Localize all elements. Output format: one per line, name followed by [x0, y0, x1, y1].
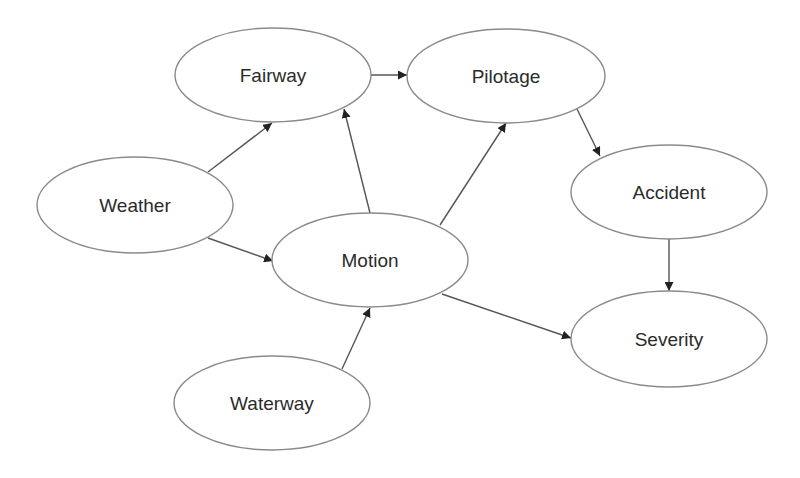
node-fairway: Fairway [175, 28, 371, 122]
node-motion: Motion [272, 213, 468, 307]
node-label: Weather [99, 195, 171, 216]
edge-weather-to-fairway [208, 123, 272, 172]
edge-waterway-to-motion [342, 308, 370, 369]
node-label: Fairway [240, 65, 307, 86]
arrow-line [577, 109, 600, 156]
node-pilotage: Pilotage [407, 29, 605, 123]
arrow-line [344, 109, 370, 213]
node-label: Severity [635, 329, 704, 350]
edge-motion-to-severity [442, 294, 571, 338]
node-accident: Accident [571, 145, 767, 239]
edge-weather-to-motion [208, 238, 273, 261]
arrow-line [208, 238, 273, 261]
node-label: Pilotage [472, 66, 541, 87]
causal-diagram: FairwayPilotageWeatherAccidentMotionSeve… [0, 0, 800, 478]
node-weather: Weather [37, 157, 233, 253]
arrow-line [208, 123, 272, 172]
edge-motion-to-fairway [344, 109, 370, 213]
edge-pilotage-to-accident [577, 109, 600, 156]
arrow-line [442, 294, 571, 338]
node-label: Waterway [230, 393, 314, 414]
arrow-line [440, 123, 506, 225]
arrow-line [342, 308, 370, 369]
node-severity: Severity [571, 291, 767, 387]
node-waterway: Waterway [174, 356, 370, 450]
nodes-layer: FairwayPilotageWeatherAccidentMotionSeve… [37, 28, 767, 450]
node-label: Motion [341, 250, 398, 271]
edge-motion-to-pilotage [440, 123, 506, 225]
node-label: Accident [633, 182, 707, 203]
